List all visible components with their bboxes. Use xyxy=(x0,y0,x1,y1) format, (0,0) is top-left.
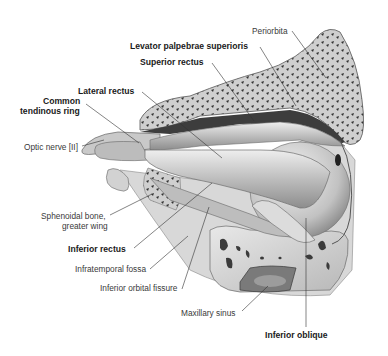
label-superior-rectus: Superior rectus xyxy=(140,57,204,67)
label-lateral-rectus: Lateral rectus xyxy=(78,86,134,96)
label-sphenoidal-bone-line1: Sphenoidal bone, xyxy=(41,211,106,221)
label-periorbita: Periorbita xyxy=(252,26,288,36)
label-infratemporal-fossa: Infratemporal fossa xyxy=(75,264,146,274)
label-common-tendinous-ring-line1: Common xyxy=(43,96,80,106)
label-inferior-rectus: Inferior rectus xyxy=(68,244,126,254)
label-inferior-oblique: Inferior oblique xyxy=(265,330,328,340)
label-maxillary-sinus: Maxillary sinus xyxy=(181,308,235,318)
label-sphenoidal-bone-line2: greater wing xyxy=(62,221,108,231)
label-levator-palpebrae-superioris: Levator palpebrae superioris xyxy=(130,41,248,51)
orbit-illustration xyxy=(0,0,388,356)
label-common-tendinous-ring-line2: tendinous ring xyxy=(20,106,80,116)
orbit-anatomy-figure: Periorbita Levator palpebrae superioris … xyxy=(0,0,388,356)
label-inferior-orbital-fissure: Inferior orbital fissure xyxy=(100,283,177,293)
label-optic-nerve: Optic nerve [II] xyxy=(24,142,78,152)
